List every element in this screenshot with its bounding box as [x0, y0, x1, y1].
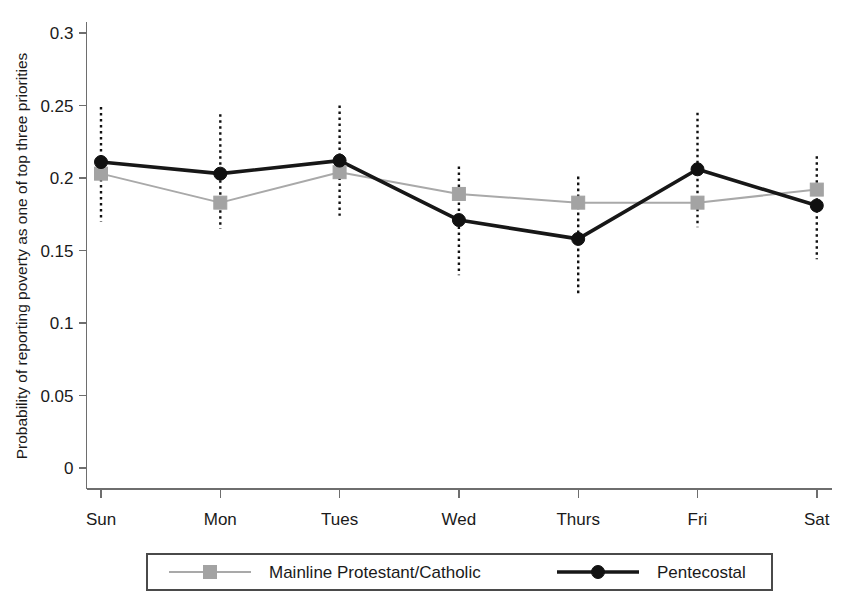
legend-marker-square-icon — [204, 566, 217, 579]
x-axis-tick-label-mon: Mon — [204, 510, 237, 529]
x-axis-tick-label-fri: Fri — [688, 510, 708, 529]
marker-pentecostal-sun — [95, 156, 108, 169]
y-axis-tick-label: 0.25 — [40, 97, 73, 116]
axes — [79, 22, 833, 498]
marker-pentecostal-sat — [810, 199, 823, 212]
y-axis-tick-label: 0.15 — [40, 242, 73, 261]
chart-page: 00.050.10.150.20.250.3SunMonTuesWedThurs… — [0, 0, 842, 605]
y-axis-tick-label: 0.05 — [40, 387, 73, 406]
marker-mainline-sun — [95, 167, 108, 180]
axis-labels: 00.050.10.150.20.250.3SunMonTuesWedThurs… — [13, 24, 830, 529]
x-axis-tick-label-sat: Sat — [804, 510, 830, 529]
y-axis-tick-label: 0.3 — [50, 24, 74, 43]
marker-mainline-thurs — [572, 196, 585, 209]
marker-mainline-wed — [452, 187, 465, 200]
chart-canvas: 00.050.10.150.20.250.3SunMonTuesWedThurs… — [0, 0, 842, 605]
x-axis-tick-label-tues: Tues — [321, 510, 358, 529]
y-axis-tick-label: 0 — [64, 459, 73, 478]
chart-legend: Mainline Protestant/CatholicPentecostal — [147, 554, 772, 590]
x-axis-tick-label-thurs: Thurs — [556, 510, 599, 529]
marker-mainline-sat — [810, 183, 823, 196]
marker-pentecostal-wed — [452, 214, 465, 227]
y-axis-tick-label: 0.1 — [50, 314, 74, 333]
marker-mainline-tues — [333, 166, 346, 179]
marker-mainline-mon — [214, 196, 227, 209]
marker-pentecostal-thurs — [572, 232, 585, 245]
legend-marker-circle-icon — [592, 566, 605, 579]
y-axis-title: Probability of reporting poverty as one … — [13, 52, 30, 459]
y-axis-tick-label: 0.2 — [50, 169, 74, 188]
x-axis-tick-label-sun: Sun — [86, 510, 116, 529]
x-axis-tick-label-wed: Wed — [442, 510, 477, 529]
legend-label-pentecostal: Pentecostal — [657, 563, 746, 582]
marker-pentecostal-mon — [214, 167, 227, 180]
legend-label-mainline: Mainline Protestant/Catholic — [269, 563, 481, 582]
marker-pentecostal-tues — [333, 154, 346, 167]
marker-mainline-fri — [691, 196, 704, 209]
marker-pentecostal-fri — [691, 163, 704, 176]
